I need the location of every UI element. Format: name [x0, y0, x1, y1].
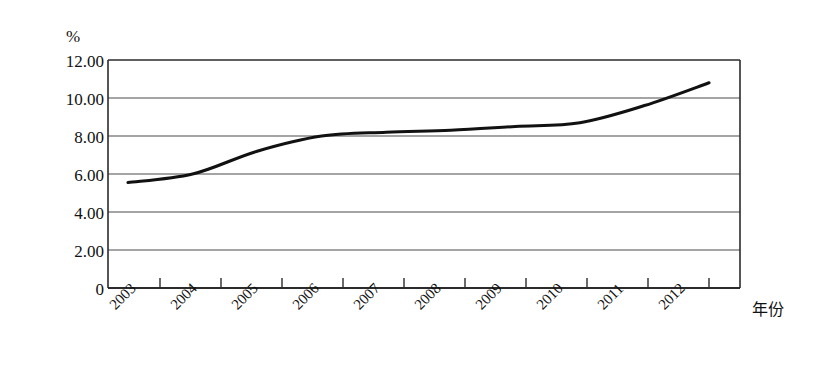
plot-area: [0, 0, 825, 373]
chart-container: % 12.00 10.00 8.00 6.00 4.00 2.00 0: [0, 0, 825, 373]
gridlines: [108, 98, 740, 250]
x-axis-title: 年份: [752, 296, 784, 320]
